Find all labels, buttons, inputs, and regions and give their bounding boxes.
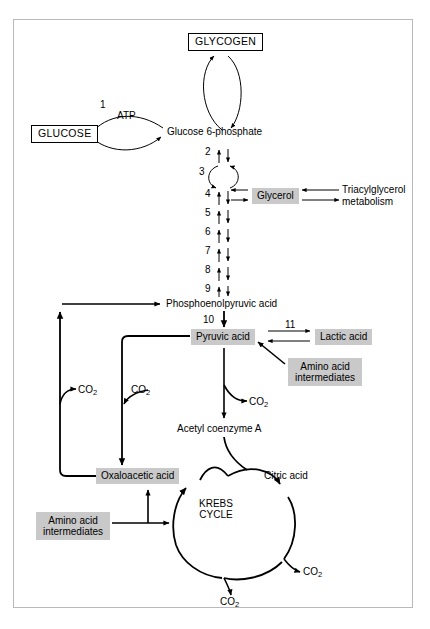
co2-pyruvate: CO2 [249, 396, 268, 410]
node-glucose-6-phosphate: Glucose 6-phosphate [167, 126, 262, 137]
node-triacylglycerol-metabolism-line1: Triacylglycerol [342, 184, 406, 195]
co2-subscript: 2 [235, 600, 239, 609]
krebs-line1: KREBS [199, 498, 233, 509]
node-acetyl-coenzyme-a: Acetyl coenzyme A [177, 423, 261, 434]
co2-text: CO [78, 384, 93, 395]
step-number-1: 1 [100, 99, 106, 110]
co2-left-outer: CO2 [78, 384, 97, 398]
co2-krebs-bottom: CO2 [220, 596, 239, 610]
node-glycogen: GLYCOGEN [188, 33, 263, 51]
diagram-page: GLYCOGEN GLUCOSE ATP 1 Glucose 6-phospha… [0, 0, 430, 629]
step-number-10: 10 [203, 314, 214, 325]
amino-acid-lower-line2: intermediates [43, 526, 103, 537]
co2-subscript: 2 [93, 388, 97, 397]
co2-subscript: 2 [264, 400, 268, 409]
step-number-6: 6 [205, 226, 211, 237]
amino-acid-upper-line2: intermediates [295, 372, 355, 383]
co2-text: CO [249, 396, 264, 407]
step-number-9: 9 [205, 283, 211, 294]
node-oxaloacetic-acid: Oxaloacetic acid [96, 468, 179, 484]
step-number-5: 5 [205, 207, 211, 218]
step-number-7: 7 [205, 245, 211, 256]
co2-text: CO [303, 566, 318, 577]
node-amino-acid-intermediates-upper: Amino acid intermediates [288, 358, 362, 386]
node-citric-acid: Citric acid [264, 470, 308, 481]
co2-subscript: 2 [318, 570, 322, 579]
co2-krebs-right: CO2 [303, 566, 322, 580]
node-glycerol: Glycerol [252, 188, 299, 204]
step-number-3: 3 [199, 166, 205, 177]
node-pyruvic-acid: Pyruvic acid [191, 329, 255, 345]
node-amino-acid-intermediates-lower: Amino acid intermediates [36, 512, 110, 540]
step-number-11: 11 [285, 319, 295, 330]
step-number-2: 2 [205, 146, 211, 157]
node-krebs-cycle: KREBS CYCLE [199, 498, 233, 520]
krebs-line2: CYCLE [199, 509, 232, 520]
step-number-8: 8 [205, 264, 211, 275]
co2-text: CO [220, 596, 235, 607]
node-glucose: GLUCOSE [31, 125, 98, 143]
co2-text: CO [131, 384, 146, 395]
amino-acid-lower-line1: Amino acid [48, 515, 97, 526]
co2-left-inner: CO2 [131, 384, 150, 398]
node-phosphoenolpyruvic-acid: Phosphoenolpyruvic acid [166, 298, 277, 309]
node-lactic-acid: Lactic acid [315, 329, 372, 345]
co2-subscript: 2 [146, 388, 150, 397]
amino-acid-upper-line1: Amino acid [300, 361, 349, 372]
label-atp: ATP [117, 110, 136, 121]
step-number-4: 4 [205, 188, 211, 199]
node-triacylglycerol-metabolism-line2: metabolism [342, 196, 393, 207]
